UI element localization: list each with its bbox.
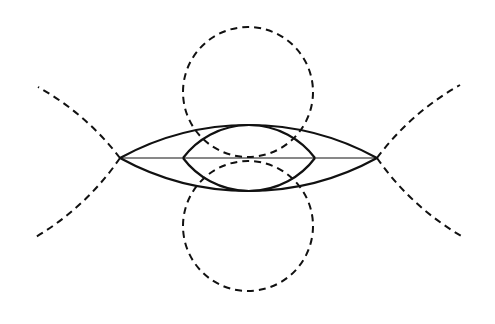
upper-left-dashed-arc [38,87,120,158]
outer-lens-lower-arc [120,158,377,191]
outer-lens-upper-arc [120,125,377,158]
lower-left-dashed-arc [34,158,120,238]
diagram-canvas [0,0,495,324]
lens-construction-diagram [0,0,495,324]
lower-right-dashed-arc [377,158,463,237]
bottom-dashed-circle [183,161,313,291]
upper-right-dashed-arc [377,85,460,158]
